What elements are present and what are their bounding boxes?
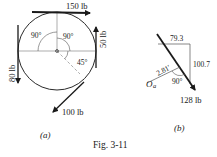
angle-label-lower-right: 45° — [77, 58, 88, 67]
right-angle-label: 90° — [172, 77, 183, 86]
force-label-80lb: 80 lb — [7, 65, 17, 82]
horizontal-component-label: 79.3 — [170, 34, 183, 43]
panel-a: 150 lb 50 lb 80 lb 100 lb 90° 90° 45° (a… — [7, 1, 108, 140]
figure-caption: Fig. 3-11 — [93, 140, 128, 150]
resultant-label: 128 lb — [180, 95, 202, 105]
force-arrow-150lb — [32, 12, 90, 13]
panel-b: 79.3 100.7 2.81′ 90° O a 128 lb (b) — [146, 34, 210, 133]
force-label-100lb: 100 lb — [62, 107, 84, 117]
angle-symbol-label: a — [153, 82, 156, 89]
angle-label-upper-left: 90° — [31, 31, 42, 40]
angle-arc-lower-right — [65, 51, 68, 59]
point-o-label: O — [146, 79, 153, 89]
panel-a-label: (a) — [40, 130, 51, 140]
figure-3-11: 150 lb 50 lb 80 lb 100 lb 90° 90° 45° (a… — [0, 0, 217, 157]
force-label-150lb: 150 lb — [66, 1, 88, 11]
force-label-50lb: 50 lb — [98, 31, 108, 48]
vertical-component-label: 100.7 — [193, 60, 210, 69]
angle-label-upper-right: 90° — [63, 32, 74, 41]
distance-label: 2.81′ — [155, 63, 173, 78]
panel-b-label: (b) — [174, 123, 185, 133]
